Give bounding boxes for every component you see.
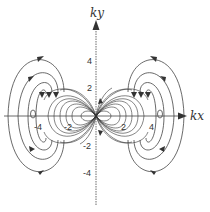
- y-axis-arrow-icon: [93, 20, 100, 30]
- arrow-icon: [28, 76, 34, 82]
- y-tick-label: -4: [83, 168, 91, 178]
- x-tick-label: -2: [64, 122, 72, 132]
- y-tick-label: -2: [83, 141, 91, 151]
- x-axis-label: kx: [190, 109, 204, 123]
- x-tick-label: 2: [121, 122, 126, 132]
- y-axis-label: ky: [90, 6, 104, 20]
- y-tick-label: 4: [87, 56, 92, 66]
- x-tick-label: -4: [34, 122, 42, 132]
- field-line-diagram: -4 -2 2 4 4 2 -2 -4 ky kx: [0, 0, 210, 212]
- arrow-icon: [98, 130, 103, 136]
- x-axis-arrow-icon: [178, 113, 187, 120]
- y-tick-label: 2: [87, 83, 92, 93]
- arrow-icon: [98, 98, 103, 104]
- x-tick-label: 4: [149, 122, 154, 132]
- axes: [4, 20, 187, 205]
- arrow-icon: [37, 56, 44, 62]
